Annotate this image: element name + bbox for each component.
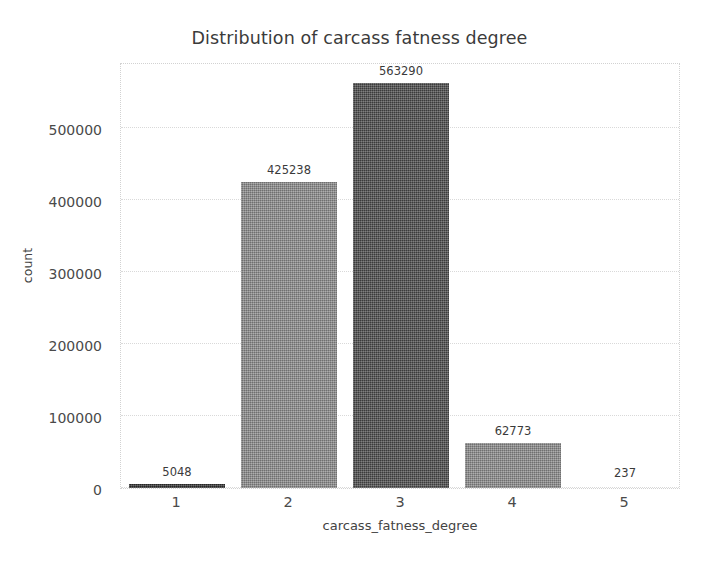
plot-area: 504842523856329062773237 — [120, 63, 680, 489]
bar-value-label: 425238 — [229, 163, 349, 177]
x-tick-label: 2 — [232, 494, 344, 510]
y-tick-label: 200000 — [49, 338, 102, 354]
y-tick-label: 400000 — [49, 194, 102, 210]
bar — [129, 484, 225, 488]
chart-title: Distribution of carcass fatness degree — [0, 28, 719, 48]
bar-value-label: 237 — [565, 466, 685, 480]
bar — [241, 182, 337, 488]
bar — [465, 443, 561, 488]
x-axis-tick-labels: 12345 — [120, 494, 680, 516]
y-tick-label: 0 — [93, 482, 102, 498]
y-axis-label: count — [20, 221, 35, 311]
x-tick-label: 5 — [568, 494, 680, 510]
bar — [353, 83, 449, 488]
chart-figure: Distribution of carcass fatness degree 0… — [0, 0, 719, 562]
y-tick-label: 300000 — [49, 266, 102, 282]
bar-value-label: 5048 — [117, 465, 237, 479]
bar-value-label: 563290 — [341, 64, 461, 78]
x-tick-label: 4 — [456, 494, 568, 510]
y-tick-label: 100000 — [49, 410, 102, 426]
x-tick-label: 1 — [120, 494, 232, 510]
x-tick-label: 3 — [344, 494, 456, 510]
y-axis-tick-labels: 0100000200000300000400000500000 — [0, 63, 112, 489]
bar-value-label: 62773 — [453, 424, 573, 438]
y-tick-label: 500000 — [49, 122, 102, 138]
x-axis-label: carcass_fatness_degree — [120, 518, 680, 533]
